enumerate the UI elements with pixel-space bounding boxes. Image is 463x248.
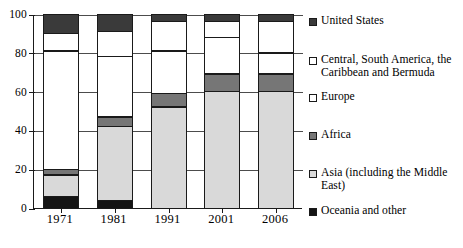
legend-item[interactable]: Europe bbox=[309, 90, 461, 103]
bar-segment[interactable] bbox=[97, 57, 133, 117]
legend-item-label: Asia (including the Middle East) bbox=[321, 166, 461, 192]
segment-divider bbox=[97, 31, 133, 32]
white-swatch bbox=[309, 94, 317, 102]
black-swatch bbox=[309, 208, 317, 216]
segment-divider bbox=[204, 73, 240, 74]
legend-item-label: Oceania and other bbox=[321, 204, 406, 217]
bar-segment[interactable] bbox=[97, 31, 133, 56]
y-axis-tick-100 bbox=[29, 15, 35, 16]
segment-divider bbox=[151, 21, 187, 22]
bar-segment[interactable] bbox=[204, 92, 240, 208]
legend-item-label: Africa bbox=[321, 128, 351, 141]
segment-divider bbox=[258, 73, 294, 74]
bar-segment[interactable] bbox=[258, 74, 294, 91]
bar-1971[interactable] bbox=[43, 15, 79, 208]
segment-divider bbox=[43, 169, 79, 170]
bar-segment[interactable] bbox=[43, 196, 79, 208]
white-swatch bbox=[309, 57, 317, 65]
segment-divider bbox=[258, 21, 294, 22]
stacked-bar-chart: 020406080100 19711981199120012006 United… bbox=[0, 0, 463, 248]
legend-item[interactable]: Africa bbox=[309, 128, 461, 141]
bar-segment[interactable] bbox=[97, 200, 133, 208]
bar-segment[interactable] bbox=[151, 107, 187, 208]
y-axis-tick-40 bbox=[29, 131, 35, 132]
bar-2001[interactable] bbox=[204, 15, 240, 208]
bar-2006[interactable] bbox=[258, 15, 294, 208]
segment-divider bbox=[204, 21, 240, 22]
segment-divider bbox=[97, 200, 133, 201]
legend-item-label: Europe bbox=[321, 90, 355, 103]
bar-segment[interactable] bbox=[151, 94, 187, 108]
segment-divider bbox=[97, 56, 133, 57]
medium-gray-swatch bbox=[309, 132, 317, 140]
legend-item-label: Central, South America, the Caribbean an… bbox=[321, 53, 461, 79]
bar-segment[interactable] bbox=[258, 92, 294, 208]
bar-segment[interactable] bbox=[204, 22, 240, 38]
bar-segment[interactable] bbox=[258, 22, 294, 53]
bar-segment[interactable] bbox=[204, 37, 240, 74]
y-axis-label-40: 40 bbox=[15, 126, 27, 138]
light-gray-swatch bbox=[309, 170, 317, 178]
bar-segment[interactable] bbox=[97, 14, 133, 31]
segment-divider bbox=[43, 196, 79, 197]
x-axis-label-2006: 2006 bbox=[240, 213, 310, 226]
legend-item[interactable]: Central, South America, the Caribbean an… bbox=[309, 53, 461, 79]
y-axis-label-60: 60 bbox=[15, 87, 27, 99]
dark-gray-swatch bbox=[309, 18, 317, 26]
bar-segment[interactable] bbox=[43, 51, 79, 169]
segment-divider bbox=[97, 126, 133, 127]
plot-area: 020406080100 bbox=[33, 15, 302, 209]
segment-divider bbox=[97, 116, 133, 117]
bar-segment[interactable] bbox=[43, 14, 79, 33]
bar-segment[interactable] bbox=[151, 22, 187, 51]
segment-divider bbox=[204, 91, 240, 92]
chart-legend: United StatesCentral, South America, the… bbox=[309, 10, 461, 225]
bar-1991[interactable] bbox=[151, 15, 187, 208]
y-axis-tick-60 bbox=[29, 92, 35, 93]
y-axis-label-100: 100 bbox=[9, 9, 27, 21]
bar-segment[interactable] bbox=[204, 74, 240, 91]
legend-item[interactable]: Asia (including the Middle East) bbox=[309, 166, 461, 192]
bar-segment[interactable] bbox=[43, 33, 79, 50]
segment-divider bbox=[258, 52, 294, 53]
segment-divider bbox=[151, 50, 187, 51]
y-axis-tick-80 bbox=[29, 53, 35, 54]
bar-segment[interactable] bbox=[97, 127, 133, 201]
segment-divider bbox=[204, 37, 240, 38]
segment-divider bbox=[43, 50, 79, 51]
bar-segment[interactable] bbox=[43, 175, 79, 196]
bar-segment[interactable] bbox=[258, 53, 294, 74]
y-axis-tick-20 bbox=[29, 170, 35, 171]
segment-divider bbox=[151, 93, 187, 94]
segment-divider bbox=[151, 106, 187, 107]
legend-item[interactable]: Oceania and other bbox=[309, 204, 461, 217]
segment-divider bbox=[258, 91, 294, 92]
legend-item[interactable]: United States bbox=[309, 14, 461, 27]
legend-item-label: United States bbox=[321, 14, 384, 27]
bar-segment[interactable] bbox=[151, 51, 187, 94]
y-axis-label-80: 80 bbox=[15, 48, 27, 60]
segment-divider bbox=[43, 174, 79, 175]
y-axis-tick-0 bbox=[29, 209, 35, 210]
segment-divider bbox=[43, 33, 79, 34]
y-axis-label-20: 20 bbox=[15, 164, 27, 176]
bar-1981[interactable] bbox=[97, 15, 133, 208]
